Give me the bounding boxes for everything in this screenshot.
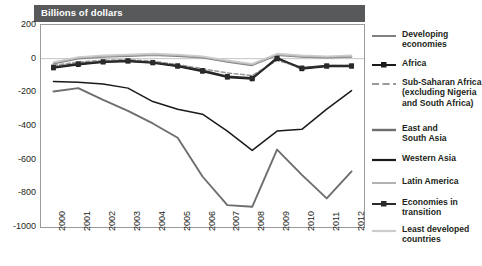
legend-item-label: Least developed countries [402,223,469,245]
legend-swatch-icon [372,122,396,134]
legend-item[interactable]: Sub-Saharan Africa (excluding Nigeria an… [372,76,481,108]
x-axis-tick-label: 2001 [82,211,92,231]
legend-item-label: Developing economies [402,28,448,50]
legend-item-label: Economies in transition [402,196,458,218]
x-axis-tick-label: 2007 [231,211,241,231]
x-axis-tick-label: 2009 [281,211,291,231]
chart-title-bar: Billions of dollars [34,5,365,22]
x-axis-tick-label: 2010 [306,211,316,231]
y-axis-tick-label: -200 [2,86,36,96]
plot-area [40,24,365,228]
legend-item-label: Latin America [402,175,459,186]
legend-item-label: Africa [402,57,426,68]
legend-item[interactable]: Western Asia [372,152,456,164]
legend-item-label: East and South Asia [402,122,447,144]
y-axis-tick-label: 200 [2,19,36,29]
legend-swatch-icon [372,76,396,88]
legend-swatch-icon [372,223,396,235]
x-axis-tick-label: 2011 [331,212,341,231]
legend-swatch-icon [372,196,396,208]
x-axis-tick-label: 2004 [157,211,167,231]
y-axis-tick-label: -800 [2,187,36,197]
y-axis-tick-label: -600 [2,154,36,164]
x-axis-tick-label: 2008 [256,211,266,231]
legend-item[interactable]: Africa [372,57,426,69]
y-axis-tick-label: 0 [2,53,36,63]
legend-item-label: Sub-Saharan Africa (excluding Nigeria an… [402,76,481,108]
y-axis-tick-label: -400 [2,120,36,130]
x-axis-tick-label: 2003 [132,211,142,231]
x-axis-tick-label: 2006 [207,211,217,231]
x-axis-tick-label: 2000 [57,211,67,231]
legend-swatch-icon [372,28,396,40]
legend-item[interactable]: Economies in transition [372,196,458,218]
legend-item[interactable]: East and South Asia [372,122,447,144]
legend-item[interactable]: Least developed countries [372,223,469,245]
x-axis-tick-label: 2012 [356,211,366,231]
legend-swatch-icon [372,175,396,187]
legend-item[interactable]: Latin America [372,175,459,187]
page-title: Billions of dollars [41,7,123,18]
x-axis-tick-label: 2005 [182,211,192,231]
y-axis-tick-label: -1000 [2,221,36,231]
chart-container: Billions of dollars 2000-200-400-600-800… [0,0,482,266]
legend-item-label: Western Asia [402,152,456,163]
x-axis-tick-label: 2002 [107,211,117,231]
legend-swatch-icon [372,152,396,164]
legend-swatch-icon [372,57,396,69]
legend-item[interactable]: Developing economies [372,28,448,50]
